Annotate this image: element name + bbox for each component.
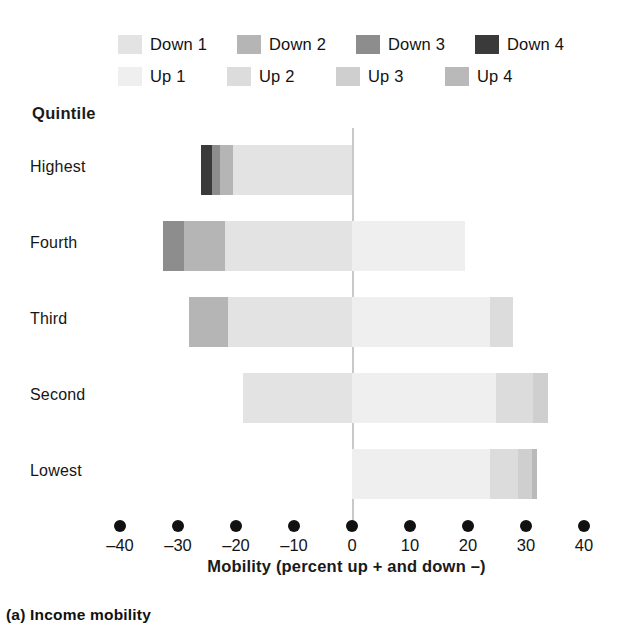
legend-item-up-1: Up 1 <box>118 67 213 86</box>
bar-segment-up-4 <box>532 449 537 499</box>
x-tick-label--40: –40 <box>90 536 150 555</box>
legend-label-up-1: Up 1 <box>150 67 186 86</box>
bar-track <box>0 221 635 271</box>
bar-segment-down-2 <box>189 297 228 347</box>
bar-segment-up-2 <box>490 297 513 347</box>
y-axis-title: Quintile <box>32 104 96 123</box>
x-tick-dot-20 <box>462 520 474 532</box>
bar-segment-down-1 <box>228 297 352 347</box>
x-tick-dot--30 <box>172 520 184 532</box>
bar-row-second: Second <box>0 360 635 436</box>
legend-swatch-up-1 <box>118 67 142 86</box>
legend-swatch-up-4 <box>445 67 469 86</box>
x-tick-label--20: –20 <box>206 536 266 555</box>
legend-label-up-2: Up 2 <box>259 67 295 86</box>
legend-swatch-down-2 <box>237 35 261 54</box>
x-tick-dot-40 <box>578 520 590 532</box>
bar-track <box>0 297 635 347</box>
bar-segment-down-1 <box>233 145 352 195</box>
legend-item-down-4: Down 4 <box>475 35 580 54</box>
x-tick-dot-30 <box>520 520 532 532</box>
bar-segment-up-2 <box>490 449 518 499</box>
bar-segment-up-1 <box>352 449 490 499</box>
x-tick-label-0: 0 <box>322 536 382 555</box>
bar-segment-up-2 <box>496 373 533 423</box>
bar-segment-down-4 <box>201 145 212 195</box>
x-tick-dot-10 <box>404 520 416 532</box>
legend-row-down: Down 1 Down 2 Down 3 Down 4 <box>118 28 618 60</box>
x-axis-title: Mobility (percent up + and down –) <box>0 557 635 576</box>
legend-label-down-3: Down 3 <box>388 35 445 54</box>
bar-track <box>0 145 635 195</box>
x-tick-label-10: 10 <box>380 536 440 555</box>
legend-label-down-2: Down 2 <box>269 35 326 54</box>
bar-segment-up-3 <box>518 449 532 499</box>
legend-item-down-1: Down 1 <box>118 35 223 54</box>
legend-row-up: Up 1 Up 2 Up 3 Up 4 <box>118 60 618 92</box>
legend-label-up-4: Up 4 <box>477 67 513 86</box>
x-tick-dot-0 <box>346 520 358 532</box>
x-tick-dot--20 <box>230 520 242 532</box>
figure-caption: (a) Income mobility <box>6 606 151 624</box>
x-tick-dot--40 <box>114 520 126 532</box>
x-tick-label-30: 30 <box>496 536 556 555</box>
bar-segment-down-3 <box>212 145 220 195</box>
bar-segment-down-2 <box>220 145 233 195</box>
plot-area: HighestFourthThirdSecondLowest <box>0 132 635 512</box>
bar-row-highest: Highest <box>0 132 635 208</box>
bar-segment-down-1 <box>243 373 352 423</box>
bar-segment-up-1 <box>352 373 496 423</box>
x-axis: –40–30–20–10010203040 <box>0 512 635 562</box>
x-tick-label--10: –10 <box>264 536 324 555</box>
bar-segment-down-2 <box>184 221 225 271</box>
legend-item-down-2: Down 2 <box>237 35 342 54</box>
legend-label-down-1: Down 1 <box>150 35 207 54</box>
bar-segment-up-3 <box>533 373 548 423</box>
x-tick-label-40: 40 <box>554 536 614 555</box>
x-tick-label-20: 20 <box>438 536 498 555</box>
legend-label-down-4: Down 4 <box>507 35 564 54</box>
bar-segment-up-1 <box>352 221 465 271</box>
legend-item-down-3: Down 3 <box>356 35 461 54</box>
legend-item-up-2: Up 2 <box>227 67 322 86</box>
bar-segment-down-1 <box>225 221 352 271</box>
legend-swatch-up-2 <box>227 67 251 86</box>
legend-label-up-3: Up 3 <box>368 67 404 86</box>
chart-legend: Down 1 Down 2 Down 3 Down 4 Up 1 Up 2 Up… <box>118 28 618 92</box>
legend-swatch-down-1 <box>118 35 142 54</box>
legend-swatch-down-3 <box>356 35 380 54</box>
bar-track <box>0 449 635 499</box>
bar-segment-up-1 <box>352 297 490 347</box>
legend-item-up-4: Up 4 <box>445 67 540 86</box>
legend-swatch-down-4 <box>475 35 499 54</box>
bar-row-third: Third <box>0 284 635 360</box>
x-tick-label--30: –30 <box>148 536 208 555</box>
x-tick-dot--10 <box>288 520 300 532</box>
bar-segment-down-3 <box>163 221 184 271</box>
legend-item-up-3: Up 3 <box>336 67 431 86</box>
legend-swatch-up-3 <box>336 67 360 86</box>
bar-track <box>0 373 635 423</box>
bar-row-fourth: Fourth <box>0 208 635 284</box>
bar-row-lowest: Lowest <box>0 436 635 512</box>
